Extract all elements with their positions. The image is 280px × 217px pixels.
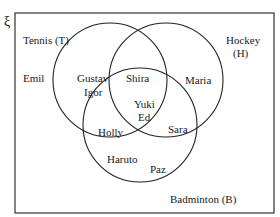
region-outside-item: Emil <box>23 72 44 84</box>
region-all-three-item: Yuki <box>134 98 155 110</box>
region-tennis-hockey-item: Shira <box>126 72 149 84</box>
region-hockey-badminton-item: Sara <box>168 123 188 135</box>
region-badminton-only-item: Haruto <box>107 153 138 165</box>
region-all-three-item: Ed <box>138 111 150 123</box>
hockey-set-label-line1: Hockey <box>226 34 260 46</box>
region-hockey-only-item: Maria <box>185 74 211 86</box>
badminton-set-label: Badminton (B) <box>170 193 236 205</box>
region-tennis-only-item: Igor <box>84 86 102 98</box>
region-badminton-only-item: Paz <box>150 163 166 175</box>
hockey-set-label-line2: (H) <box>233 47 248 59</box>
universal-set-symbol: ξ <box>4 14 10 30</box>
region-tennis-badminton-item: Holly <box>98 126 123 138</box>
tennis-set-label: Tennis (T) <box>23 34 69 46</box>
region-tennis-only-item: Gustav <box>77 72 108 84</box>
